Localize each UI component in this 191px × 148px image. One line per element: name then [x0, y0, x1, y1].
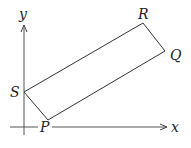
y-axis-label: y	[18, 6, 28, 22]
vertex-label-r: R	[137, 6, 149, 22]
x-axis-label: x	[171, 119, 179, 135]
diagram-canvas: y x R Q S P	[0, 0, 191, 148]
vertex-label-q: Q	[170, 47, 182, 63]
vertex-label-s: S	[10, 84, 20, 100]
rectangle-pqrs	[24, 23, 165, 120]
vertex-label-p: P	[39, 119, 50, 135]
